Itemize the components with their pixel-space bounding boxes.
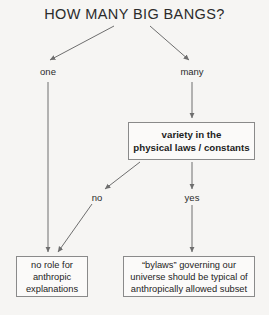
node-variety-in-physical-laws: variety in the physical laws / constants [128, 122, 255, 160]
node-no-role-line-1: no role for [26, 259, 78, 271]
node-bylaws-typical-of-allowed-subset: “bylaws” governing our universe should b… [123, 256, 255, 297]
node-variety-line-1: variety in the [133, 128, 249, 141]
node-no-role-for-anthropic-explanations: no role for anthropic explanations [16, 256, 88, 297]
edge-no-to-no-role [58, 204, 92, 252]
flowchart-diagram: HOW MANY BIG BANGS? one many variety in … [0, 0, 269, 315]
diagram-title: HOW MANY BIG BANGS? [0, 6, 269, 22]
node-no-role-line-3: explanations [26, 283, 78, 295]
node-bylaws-line-2: universe should be typical of [130, 271, 247, 283]
node-bylaws-line-3: anthropically allowed subset [130, 283, 247, 295]
edge-root-to-one [50, 26, 114, 60]
node-variety-line-2: physical laws / constants [133, 141, 249, 154]
edge-root-to-many [150, 26, 189, 60]
edge-label-yes: yes [177, 192, 207, 203]
edge-label-no: no [82, 192, 112, 203]
node-bylaws-line-1: “bylaws” governing our [130, 259, 247, 271]
edge-label-many: many [170, 66, 214, 77]
edge-variety-to-no-upper [105, 162, 140, 189]
node-no-role-line-2: anthropic [26, 271, 78, 283]
edge-label-one: one [26, 66, 70, 77]
